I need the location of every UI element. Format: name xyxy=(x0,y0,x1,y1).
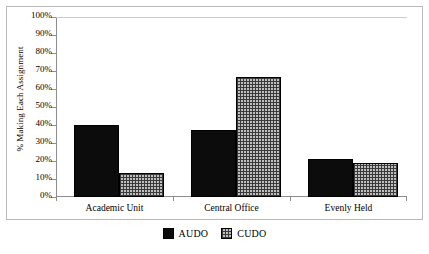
bar-group-evenly-held: Evenly Held xyxy=(290,17,407,197)
x-tick xyxy=(290,197,291,201)
x-tick xyxy=(56,197,57,201)
legend-swatch-audo-icon xyxy=(163,228,174,239)
x-category-label-academic-unit: Academic Unit xyxy=(56,203,173,213)
x-category-label-evenly-held: Evenly Held xyxy=(290,203,407,213)
x-tick xyxy=(406,197,407,201)
legend-label-audo: AUDO xyxy=(179,228,209,239)
bar-audo-evenly-held xyxy=(308,159,353,197)
y-tick-label: 90% xyxy=(36,28,53,38)
bar-group-central-office: Central Office xyxy=(173,17,290,197)
x-tick xyxy=(173,197,174,201)
bar-cudo-academic-unit xyxy=(119,173,164,197)
y-tick-label: 0% xyxy=(40,190,52,200)
y-tick-label: 70% xyxy=(36,64,53,74)
y-tick-label: 40% xyxy=(36,118,53,128)
y-tick-label: 30% xyxy=(36,136,53,146)
bar-group-academic-unit: Academic Unit xyxy=(56,17,173,197)
y-axis-label: % Making Each Assignment xyxy=(15,9,25,189)
chart-legend: AUDO CUDO xyxy=(0,228,429,239)
bar-audo-central-office xyxy=(191,130,236,198)
y-tick-label: 100% xyxy=(31,10,52,20)
y-tick-label: 80% xyxy=(36,46,53,56)
legend-swatch-cudo-icon xyxy=(221,228,232,239)
y-tick-label: 20% xyxy=(36,154,53,164)
legend-item-cudo: CUDO xyxy=(221,228,266,239)
bar-audo-academic-unit xyxy=(74,125,119,197)
y-tick-label: 50% xyxy=(36,100,53,110)
bar-cudo-central-office xyxy=(236,77,281,197)
legend-item-audo: AUDO xyxy=(163,228,209,239)
x-category-label-central-office: Central Office xyxy=(173,203,290,213)
plot-area: 100% 90% 80% 70% 60% 50% 40% 30% xyxy=(56,17,407,197)
legend-label-cudo: CUDO xyxy=(237,228,266,239)
chart-figure: % Making Each Assignment 100% 90% 80% 70… xyxy=(0,0,429,254)
bar-cudo-evenly-held xyxy=(353,163,398,197)
y-tick-label: 60% xyxy=(36,82,53,92)
y-tick-label: 10% xyxy=(36,172,53,182)
